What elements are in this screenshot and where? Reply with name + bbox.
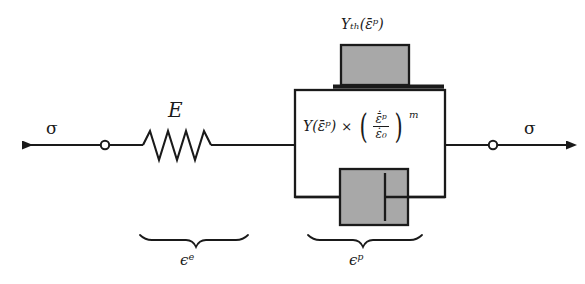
close-paren: ) [394, 112, 402, 141]
elastic-modulus-label: E [168, 98, 183, 122]
stress-label-right: σ [524, 118, 536, 138]
stress-label-left: σ [46, 118, 58, 138]
open-paren: ( [360, 112, 368, 141]
elastic-spring [143, 131, 211, 160]
right-connector-node [489, 141, 497, 149]
left-connector-node [101, 141, 109, 149]
elastic-strain-label: ϵᵉ [180, 251, 194, 269]
threshold-stress-label: Yₜₕ(ε̄ᵖ) [341, 16, 384, 32]
elastic-strain-brace [140, 235, 248, 247]
figure-canvas: σ σ E Yₜₕ(ε̄ᵖ) ϵᵉ ϵᵖ Y(ε̄ᵖ) × ( ε̄̇ᵖ ε̇₀… [0, 0, 585, 284]
plastic-strain-brace [308, 235, 422, 247]
plastic-strain-label: ϵᵖ [349, 251, 363, 269]
rate-sensitivity-exponent: m [409, 110, 418, 120]
flow-rule-expression: Y(ε̄ᵖ) × ( ε̄̇ᵖ ε̇₀ ) m [303, 112, 418, 141]
yield-function-term: Y(ε̄ᵖ) [303, 119, 336, 133]
friction-slider-block [341, 45, 409, 85]
multiplication-sign: × [339, 120, 354, 133]
rheological-model-diagram [0, 0, 585, 284]
strain-rate-ratio: ε̄̇ᵖ ε̇₀ [373, 113, 388, 140]
reference-strain-rate-denominator: ε̇₀ [373, 128, 388, 140]
strain-rate-numerator: ε̄̇ᵖ [373, 113, 388, 125]
